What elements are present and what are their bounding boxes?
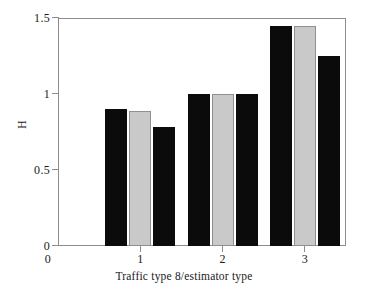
x-tick-label-2: 2 [203,252,243,266]
y-tick-mark-0.5 [52,169,59,170]
y-tick-mark-1 [52,93,59,94]
y-tick-label-1: 1 [44,88,50,100]
y-tick-mark-0 [52,245,59,246]
y-tick-label-0: 0 [44,240,50,252]
x-tick-label-1: 1 [120,252,160,266]
y-tick-label-1.5: 1.5 [34,12,50,24]
x-tick-label-0: 0 [28,252,68,266]
bars-layer [58,18,346,246]
bar-group-1-series-2 [129,111,151,246]
bar-group-2-series-2 [212,94,234,246]
y-axis-title: H [16,95,29,155]
x-axis-title: Traffic type 8/estimator type [0,270,368,283]
bar-group-1-series-1 [105,109,127,246]
y-tick-label-0.5: 0.5 [34,164,50,176]
bar-group-2-series-3 [236,94,258,246]
bar-group-1-series-3 [153,127,175,246]
x-tick-label-3: 3 [285,252,325,266]
bar-group-3-series-2 [294,26,316,246]
bar-group-3-series-3 [318,56,340,246]
bar-group-2-series-1 [188,94,210,246]
bar-chart-figure: 0 0.5 1 1.5 0 1 2 3 Traffic type 8/estim… [0,0,368,290]
bar-group-3-series-1 [270,26,292,246]
y-tick-mark-1.5 [52,17,59,18]
